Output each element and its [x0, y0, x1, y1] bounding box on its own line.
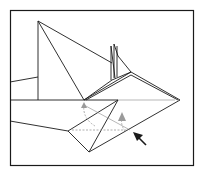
fold-arrowhead-left-icon: [81, 102, 87, 108]
triangle-top-edge: [38, 21, 112, 63]
lower-flap-edge: [10, 121, 68, 131]
push-arrow-icon: [133, 132, 146, 145]
origami-diagram: [0, 0, 205, 174]
triangle-inner-edge: [38, 21, 84, 100]
paper-outline: [10, 21, 180, 152]
body-right-inner: [131, 75, 178, 100]
fold-arrowhead-right-icon: [118, 112, 126, 121]
left-flap-edge: [10, 77, 38, 82]
body-outline: [68, 72, 180, 152]
body-upper-edge: [84, 72, 131, 100]
body-upper-edge-inner: [86, 75, 131, 100]
